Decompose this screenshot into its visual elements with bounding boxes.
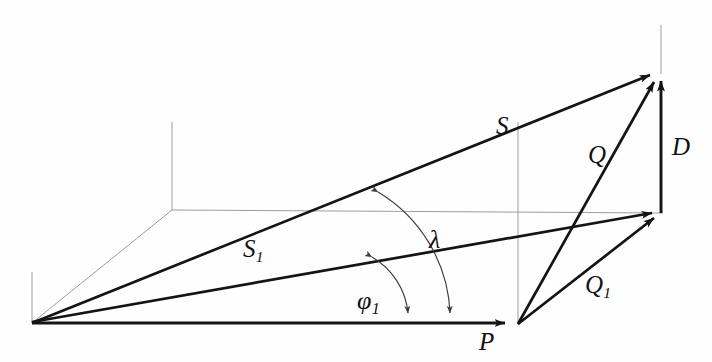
vector-diagram-figure: S D Q S1 λ Q1 φ1 P bbox=[0, 0, 712, 362]
construction-back-horizontal bbox=[172, 210, 663, 213]
label-Q: Q bbox=[588, 142, 606, 167]
label-Q1-base: Q bbox=[585, 271, 603, 298]
label-S: S bbox=[496, 113, 509, 138]
label-S1-base: S bbox=[243, 235, 256, 262]
label-Q1-subscript: 1 bbox=[603, 284, 611, 301]
label-phi1-subscript: 1 bbox=[372, 300, 380, 317]
label-phi1-base: φ bbox=[357, 286, 371, 315]
diagram-canvas bbox=[0, 0, 712, 362]
construction-base-diagonal bbox=[32, 210, 172, 323]
label-phi1: φ1 bbox=[357, 288, 379, 314]
label-P: P bbox=[479, 329, 494, 354]
vector-S1 bbox=[32, 213, 652, 322]
label-Q1: Q1 bbox=[585, 272, 611, 297]
label-S1-subscript: 1 bbox=[256, 248, 264, 265]
label-lambda: λ bbox=[429, 227, 440, 253]
vector-S bbox=[32, 75, 650, 323]
label-S1: S1 bbox=[243, 236, 263, 261]
label-D: D bbox=[672, 134, 690, 159]
